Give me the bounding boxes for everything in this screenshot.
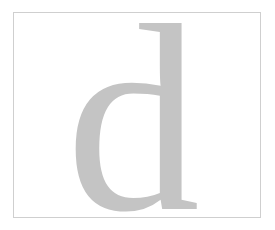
letter-plate-canvas: d bbox=[0, 0, 275, 230]
glyph-stage: d bbox=[14, 13, 260, 217]
letter-d-glyph-svg: d bbox=[14, 13, 260, 217]
letter-d-glyph: d bbox=[66, 13, 200, 217]
